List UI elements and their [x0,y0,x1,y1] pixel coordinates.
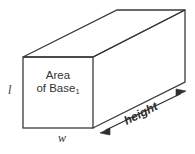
base-area-subscript: 1 [75,87,79,96]
length-label: l [8,84,11,97]
base-area-label: Area of Base1 [27,69,89,95]
base-area-line1: Area [46,69,70,81]
top-face [23,10,185,57]
arrowhead-right [176,89,186,96]
arrowhead-left [100,128,110,135]
width-label: w [58,132,66,145]
rectangular-prism-figure: Area of Base1 l w height [0,0,195,154]
base-area-line2: of Base [36,82,75,94]
